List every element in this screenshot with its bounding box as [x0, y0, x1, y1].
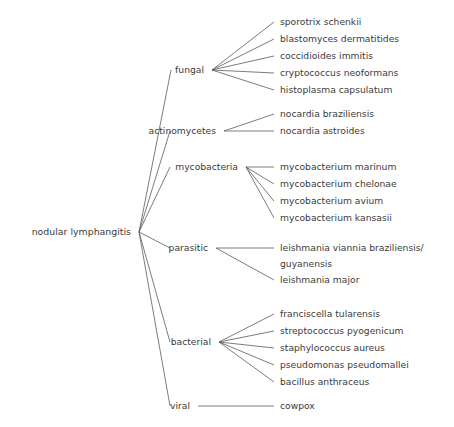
group-label-parasitic: parasitic — [169, 242, 208, 253]
labels-layer: nodular lymphangitisfungalsporotrix sche… — [32, 16, 425, 411]
edge-bacterial-leaf-2 — [219, 342, 274, 348]
leaf-label-viral-0: cowpox — [280, 400, 315, 411]
edge-mycobacteria-leaf-1 — [246, 167, 274, 184]
leaf-label-actinomycetes-0: nocardia braziliensis — [280, 108, 374, 119]
leaf-label-actinomycetes-1: nocardia astroides — [280, 125, 365, 136]
group-label-viral: viral — [170, 400, 190, 411]
group-label-bacterial: bacterial — [171, 336, 211, 347]
edge-mycobacteria-leaf-2 — [246, 167, 274, 201]
leaf-label-fungal-0: sporotrix schenkii — [280, 16, 361, 27]
edge-root-to-parasitic — [139, 232, 170, 248]
leaf-label-parasitic-1: leishmania major — [280, 274, 360, 285]
leaf-label-bacterial-2: staphylococcus aureus — [280, 342, 385, 353]
leaf-label-fungal-3: cryptococcus neoformans — [280, 67, 399, 78]
tree-canvas: nodular lymphangitisfungalsporotrix sche… — [0, 0, 454, 427]
group-label-fungal: fungal — [175, 64, 204, 75]
edge-root-to-mycobacteria — [139, 167, 170, 232]
leaf-label-mycobacteria-1: mycobacterium chelonae — [280, 178, 397, 189]
leaf-label-bacterial-1: streptococcus pyogenicum — [280, 325, 404, 336]
edge-bacterial-leaf-0 — [219, 314, 274, 342]
group-label-mycobacteria: mycobacteria — [175, 161, 238, 172]
edge-bacterial-leaf-4 — [219, 342, 274, 382]
edges-layer — [139, 22, 274, 406]
leaf-label-mycobacteria-2: mycobacterium avium — [280, 195, 383, 206]
leaf-label-bacterial-3: pseudomonas pseudomallei — [280, 359, 409, 370]
edge-mycobacteria-leaf-3 — [246, 167, 274, 218]
edge-actinomycetes-leaf-0 — [224, 114, 274, 131]
root-label: nodular lymphangitis — [32, 226, 131, 237]
leaf-label-mycobacteria-0: mycobacterium marinum — [280, 161, 396, 172]
edge-root-to-bacterial — [139, 232, 170, 342]
leaf-label-cont-parasitic-0: guyanensis — [280, 258, 332, 269]
edge-fungal-leaf-3 — [212, 70, 274, 73]
leaf-label-fungal-4: histoplasma capsulatum — [280, 84, 392, 95]
group-label-actinomycetes: actinomycetes — [149, 125, 217, 136]
edge-bacterial-leaf-1 — [219, 331, 274, 342]
leaf-label-fungal-2: coccidioides immitis — [280, 50, 373, 61]
edge-fungal-leaf-1 — [212, 39, 274, 70]
leaf-label-bacterial-4: bacillus anthraceus — [280, 376, 370, 387]
leaf-label-parasitic-0: leishmania viannia braziliensis/ — [280, 242, 425, 253]
edge-root-to-viral — [139, 232, 170, 406]
edge-root-to-fungal — [139, 70, 171, 232]
edge-fungal-leaf-4 — [212, 70, 274, 90]
tree-diagram: nodular lymphangitisfungalsporotrix sche… — [0, 0, 454, 427]
edge-parasitic-leaf-1 — [216, 248, 274, 280]
leaf-label-fungal-1: blastomyces dermatitides — [280, 33, 399, 44]
leaf-label-bacterial-0: franciscella tularensis — [280, 308, 380, 319]
leaf-label-mycobacteria-3: mycobacterium kansasii — [280, 212, 392, 223]
edge-root-to-actinomycetes — [139, 131, 170, 232]
